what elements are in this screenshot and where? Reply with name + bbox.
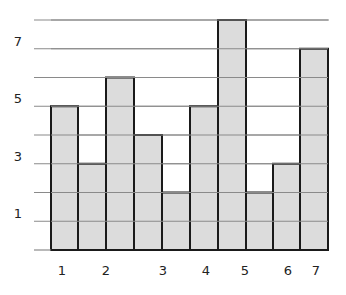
x-tick-label: 3: [159, 263, 167, 278]
y-axis-labels: 1357: [14, 34, 22, 222]
bar: [51, 106, 78, 250]
y-tick-label: 3: [14, 149, 22, 164]
x-axis-labels: 1234567: [58, 263, 320, 278]
y-tick-label: 5: [14, 91, 22, 106]
bar: [190, 106, 218, 250]
y-tick-label: 1: [14, 206, 22, 221]
bar-chart: 1357 1234567: [0, 0, 346, 295]
bar: [300, 49, 328, 250]
x-tick-label: 2: [102, 263, 110, 278]
bar: [273, 164, 300, 250]
x-tick-label: 1: [58, 263, 66, 278]
bar: [78, 164, 106, 250]
x-tick-label: 7: [312, 263, 320, 278]
y-tick-label: 7: [14, 34, 22, 49]
x-tick-label: 5: [241, 263, 249, 278]
x-tick-label: 4: [202, 263, 210, 278]
x-tick-label: 6: [284, 263, 292, 278]
bars: [51, 20, 328, 250]
